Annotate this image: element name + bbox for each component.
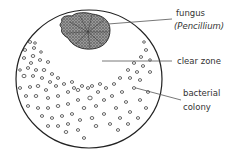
- label-fungus: fungus: [176, 8, 205, 18]
- label-clear-zone: clear zone: [177, 56, 221, 66]
- label-bacterial: bacterial: [183, 88, 220, 98]
- label-fungus-species: (Pencillium): [174, 21, 224, 31]
- label-colony: colony: [183, 102, 211, 112]
